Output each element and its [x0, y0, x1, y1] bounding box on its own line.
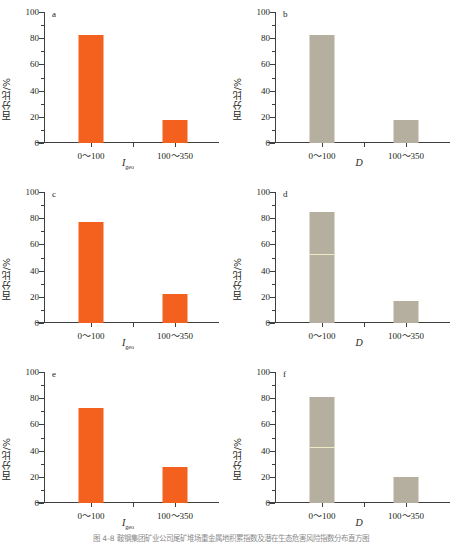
- y-tick-major: [270, 38, 275, 39]
- plot-area: 0204060801000～100100～350: [275, 372, 443, 503]
- y-tick-minor: [41, 130, 44, 131]
- y-tick-minor: [272, 385, 275, 386]
- y-tick-major: [39, 297, 44, 298]
- y-tick-label: 40: [13, 86, 39, 95]
- y-tick-label: 80: [13, 34, 39, 43]
- y-tick-label: 100: [13, 368, 39, 377]
- y-axis-line: [275, 192, 276, 323]
- y-tick-major: [39, 503, 44, 504]
- y-axis-title: 百分比/%: [2, 78, 12, 120]
- x-tick: [322, 503, 323, 507]
- y-tick-major: [270, 424, 275, 425]
- y-tick-major: [39, 244, 44, 245]
- y-tick-minor: [41, 411, 44, 412]
- y-axis-line: [275, 12, 276, 143]
- x-tick: [364, 503, 365, 507]
- y-tick-major: [270, 372, 275, 373]
- y-tick-major: [39, 218, 44, 219]
- y-tick-minor: [272, 231, 275, 232]
- y-tick-label: 80: [244, 34, 270, 43]
- y-tick-major: [39, 12, 44, 13]
- bar: [163, 120, 188, 143]
- y-tick-minor: [272, 25, 275, 26]
- y-tick-major: [270, 218, 275, 219]
- chart-panel-d: d百分比/%D0204060801000～100100～350: [231, 180, 462, 360]
- y-tick-major: [39, 451, 44, 452]
- bar: [79, 408, 104, 503]
- x-axis-title: D: [355, 517, 362, 528]
- y-axis-line: [275, 372, 276, 503]
- y-tick-label: 20: [13, 292, 39, 301]
- plot-area: 0204060801000～100100～350: [275, 192, 443, 323]
- y-tick-major: [270, 143, 275, 144]
- chart-panel-e: e百分比/%Igeo0204060801000～100100～350: [0, 360, 231, 540]
- y-tick-label: 40: [244, 86, 270, 95]
- chart-panel-b: b百分比/%D0204060801000～100100～350: [231, 0, 462, 180]
- y-axis-line: [44, 12, 45, 143]
- x-axis-title-symbol: D: [355, 157, 362, 168]
- x-tick: [406, 323, 407, 327]
- y-tick-label: 80: [13, 214, 39, 223]
- x-tick: [364, 143, 365, 147]
- y-tick-label: 20: [13, 112, 39, 121]
- y-tick-minor: [272, 104, 275, 105]
- y-tick-major: [39, 117, 44, 118]
- y-tick-label: 80: [244, 394, 270, 403]
- x-axis-title: Igeo: [122, 157, 134, 173]
- y-tick-major: [270, 117, 275, 118]
- y-tick-minor: [272, 51, 275, 52]
- x-category-label: 100～350: [388, 151, 424, 161]
- y-tick-label: 60: [244, 420, 270, 429]
- x-category-label: 0～100: [78, 511, 105, 521]
- y-tick-label: 100: [13, 188, 39, 197]
- x-tick: [91, 503, 92, 507]
- plot-area: 0204060801000～100100～350: [44, 12, 212, 143]
- y-tick-label: 60: [13, 60, 39, 69]
- y-tick-major: [270, 323, 275, 324]
- x-axis-title-subscript: geo: [125, 344, 134, 350]
- x-axis-title-symbol: D: [355, 517, 362, 528]
- figure-root: a百分比/%Igeo0204060801000～100100～350b百分比/%…: [0, 0, 462, 546]
- y-tick-label: 60: [244, 240, 270, 249]
- chart-panel-a: a百分比/%Igeo0204060801000～100100～350: [0, 0, 231, 180]
- x-axis-title-subscript: geo: [125, 164, 134, 170]
- y-tick-minor: [272, 205, 275, 206]
- x-category-label: 100～350: [388, 331, 424, 341]
- plot-area: 0204060801000～100100～350: [44, 192, 212, 323]
- x-axis-title: D: [355, 337, 362, 348]
- x-category-label: 0～100: [78, 151, 105, 161]
- y-tick-major: [270, 192, 275, 193]
- y-tick-label: 0: [13, 139, 39, 148]
- x-axis-title: Igeo: [122, 337, 134, 353]
- bar: [394, 477, 419, 503]
- y-tick-label: 0: [244, 499, 270, 508]
- y-tick-major: [270, 398, 275, 399]
- y-axis-title: 百分比/%: [2, 438, 12, 480]
- y-tick-major: [270, 64, 275, 65]
- y-tick-major: [39, 398, 44, 399]
- y-tick-label: 20: [244, 292, 270, 301]
- y-tick-label: 40: [13, 446, 39, 455]
- bar: [163, 294, 188, 323]
- x-axis-line: [267, 502, 450, 503]
- bar: [394, 301, 419, 323]
- bar-segment-seam: [310, 447, 335, 448]
- y-tick-major: [270, 477, 275, 478]
- x-tick: [91, 143, 92, 147]
- y-tick-label: 0: [13, 499, 39, 508]
- y-tick-major: [270, 12, 275, 13]
- y-tick-minor: [272, 490, 275, 491]
- x-axis-line: [267, 322, 450, 323]
- x-axis-title: D: [355, 157, 362, 168]
- x-tick: [406, 503, 407, 507]
- bar: [79, 222, 104, 323]
- y-tick-major: [39, 192, 44, 193]
- y-tick-label: 0: [244, 139, 270, 148]
- y-axis-line: [44, 192, 45, 323]
- y-tick-minor: [272, 310, 275, 311]
- y-tick-label: 20: [244, 112, 270, 121]
- y-tick-minor: [41, 231, 44, 232]
- x-tick: [133, 323, 134, 327]
- x-category-label: 0～100: [78, 331, 105, 341]
- y-tick-minor: [272, 464, 275, 465]
